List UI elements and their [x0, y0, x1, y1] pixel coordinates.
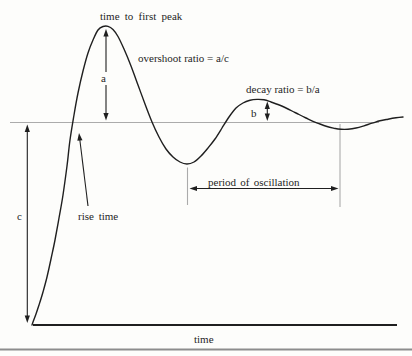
label-period-of-oscillation: period of oscillation [208, 176, 300, 189]
label-decay-ratio: decay ratio = b/a [246, 83, 320, 96]
label-overshoot-ratio: overshoot ratio = a/c [138, 52, 229, 65]
label-time-axis: time [194, 333, 214, 346]
label-b-dimension: b [249, 107, 259, 120]
label-c-dimension: c [15, 210, 24, 223]
label-rise-time: rise time [78, 210, 118, 223]
step-response-figure: time to first peak overshoot ratio = a/c… [0, 0, 412, 356]
label-a-dimension: a [99, 72, 108, 85]
label-time-to-first-peak: time to first peak [100, 10, 182, 23]
